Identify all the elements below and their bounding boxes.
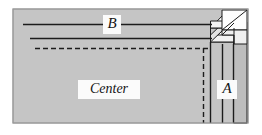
label-center-group: Center (78, 80, 140, 99)
label-a: A (221, 80, 232, 96)
corner-detail-diagram: B Center A (0, 0, 262, 135)
label-b: B (107, 15, 116, 31)
label-b-group: B (103, 15, 121, 34)
label-center: Center (90, 81, 129, 96)
label-a-group: A (217, 80, 237, 99)
figure-container: B Center A (0, 0, 262, 135)
